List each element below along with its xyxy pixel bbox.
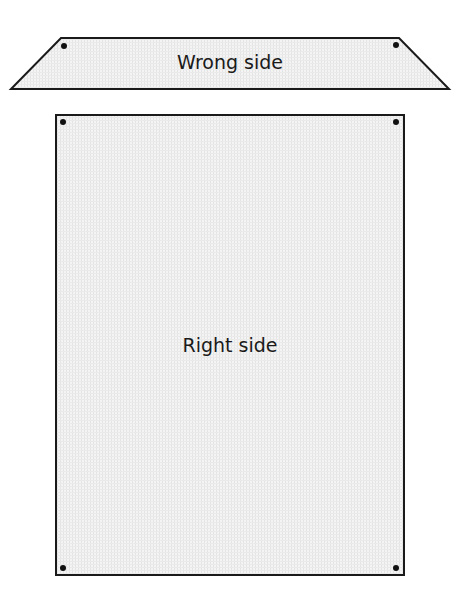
- marking-dot: [60, 565, 66, 571]
- marking-dot: [393, 119, 399, 125]
- marking-dot: [393, 42, 399, 48]
- right-side-label: Right side: [183, 334, 278, 356]
- wrong-side-piece: Wrong side: [11, 38, 449, 89]
- right-side-piece: Right side: [56, 115, 404, 575]
- pattern-diagram: Wrong side Right side: [0, 0, 457, 603]
- marking-dot: [60, 119, 66, 125]
- marking-dot: [393, 565, 399, 571]
- marking-dot: [61, 43, 67, 49]
- wrong-side-label: Wrong side: [177, 51, 283, 73]
